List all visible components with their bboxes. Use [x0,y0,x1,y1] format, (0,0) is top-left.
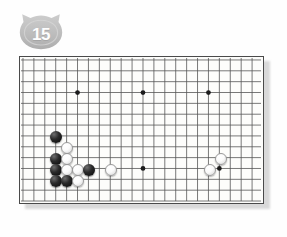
go-board[interactable] [19,56,264,204]
go-stone-layer [20,57,263,203]
white-stone [105,164,117,176]
white-stone [215,153,227,165]
black-stone [83,164,95,176]
white-stone [204,164,216,176]
white-stone [72,175,84,187]
problem-number-badge: 15 [19,12,63,52]
cat-head-badge-icon [19,12,63,52]
black-stone [50,131,62,143]
